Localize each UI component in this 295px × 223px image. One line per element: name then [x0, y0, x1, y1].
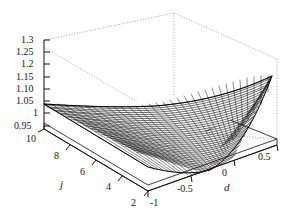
z-tick-label-6: 1.05 — [16, 95, 34, 106]
j-tick-label-4: 4 — [106, 181, 111, 192]
d-tick-label-05: 0.5 — [258, 151, 271, 162]
j-axis-title: j — [60, 178, 63, 190]
d-axis-title: d — [224, 181, 230, 193]
j-tick-label-10: 10 — [26, 133, 36, 144]
d-tick-label-neg1: -1 — [150, 197, 158, 208]
box-edge-inner-left — [45, 48, 148, 108]
z-tick-label-3: 1.2 — [21, 58, 34, 69]
z-tick-label-1: 1.3 — [21, 34, 34, 45]
surface-mesh — [44, 76, 272, 175]
z-tick-label-4: 1.15 — [16, 71, 34, 82]
d-tick-label-0: 0 — [222, 167, 227, 178]
z-tick-label-2: 1.25 — [16, 46, 34, 57]
j-tick-label-8: 8 — [54, 150, 59, 161]
box-edge-top-left — [45, 13, 174, 40]
plot-canvas — [0, 0, 295, 223]
z-axis — [44, 40, 50, 129]
z-tick-label-8: 0.95 — [14, 120, 32, 131]
surface-plot-figure: 1.3 1.25 1.2 1.15 1.10 1.05 1 0.95 10 8 … — [0, 0, 295, 223]
j-tick-label-2: 2 — [131, 197, 136, 208]
z-tick-label-7: 1 — [33, 107, 38, 118]
j-tick-label-6: 6 — [80, 166, 85, 177]
z-tick-label-5: 1.10 — [16, 83, 34, 94]
d-tick-label-neg05: -0.5 — [177, 183, 193, 194]
box-edge-top-right — [174, 13, 277, 59]
